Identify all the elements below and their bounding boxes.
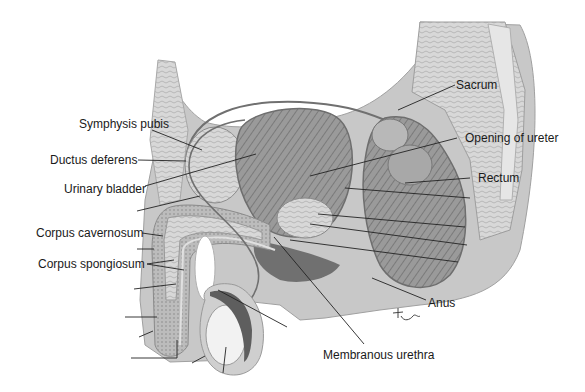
label-corpus-cavernosum: Corpus cavernosum	[36, 226, 143, 240]
label-urinary-bladder: Urinary bladder	[64, 182, 146, 196]
label-membranous-urethra: Membranous urethra	[323, 348, 434, 362]
label-symphysis-pubis: Symphysis pubis	[79, 117, 169, 131]
label-opening-of-ureter: Opening of ureter	[465, 131, 558, 145]
prostate-shape	[277, 198, 333, 238]
artist-signature	[393, 308, 420, 320]
anatomy-diagram: Symphysis pubis Ductus deferens Urinary …	[0, 0, 585, 392]
label-corpus-spongiosum: Corpus spongiosum	[38, 257, 145, 271]
label-anus: Anus	[428, 296, 455, 310]
label-sacrum: Sacrum	[456, 78, 497, 92]
label-ductus-deferens: Ductus deferens	[50, 153, 137, 167]
rectal-fold-2	[388, 145, 432, 185]
pelvis-illustration	[0, 0, 585, 392]
label-rectum: Rectum	[478, 171, 519, 185]
